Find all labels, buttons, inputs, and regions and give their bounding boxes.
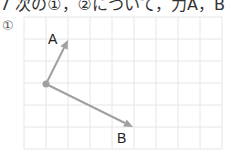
vector-label-b: B — [117, 130, 126, 146]
force-diagram: A B — [0, 0, 226, 154]
vector-label-a: A — [48, 31, 58, 47]
origin-point — [43, 81, 50, 88]
